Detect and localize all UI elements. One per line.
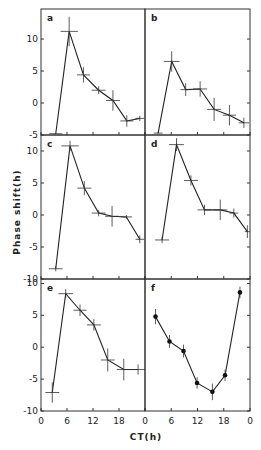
x-tick-label: 0 — [142, 416, 148, 426]
data-point — [153, 314, 158, 319]
panel-letter: a — [47, 13, 53, 23]
panel-frame — [145, 9, 250, 135]
x-tick-label: 0 — [247, 416, 253, 426]
panel-frame — [41, 9, 145, 135]
panel-letter: b — [151, 13, 158, 23]
y-tick-label: 5 — [32, 310, 38, 320]
panel-a: -50510a — [27, 9, 145, 140]
y-tick-label: 10 — [27, 34, 39, 44]
x-tick-label: 12 — [87, 416, 98, 426]
x-tick-label: 18 — [218, 416, 230, 426]
series-line — [162, 145, 247, 240]
panel-frame — [41, 279, 145, 411]
panel-letter: d — [151, 139, 157, 149]
data-point — [167, 339, 172, 344]
panel-c: -10-50510c — [23, 135, 145, 284]
panel-b: b — [145, 9, 250, 135]
panel-d: d — [145, 135, 250, 279]
data-point — [181, 349, 186, 354]
data-point — [223, 373, 228, 378]
y-axis-title: Phase shift(h) — [12, 169, 22, 254]
x-tick-label: 12 — [192, 416, 203, 426]
data-point — [238, 290, 243, 295]
panel-e: -10-50510e — [23, 278, 145, 416]
x-tick-label: 6 — [168, 416, 174, 426]
series-line — [158, 61, 244, 133]
x-tick-label: 0 — [38, 416, 44, 426]
phase-response-figure: -50510ab-10-50510cd-10-50510ef0612180612… — [0, 0, 261, 450]
panel-f: f — [145, 279, 250, 411]
x-tick-label: 18 — [113, 416, 125, 426]
panel-frame — [145, 135, 250, 279]
x-axis-title: CT(h) — [130, 432, 162, 442]
y-tick-label: -5 — [29, 242, 38, 252]
y-tick-label: 5 — [32, 178, 38, 188]
y-tick-label: -10 — [23, 406, 38, 416]
panel-letter: c — [47, 139, 52, 149]
series-line — [52, 294, 138, 393]
y-tick-label: 0 — [32, 342, 38, 352]
y-tick-label: -5 — [29, 130, 38, 140]
panels-group: -50510ab-10-50510cd-10-50510ef0612180612… — [23, 9, 253, 426]
panel-frame — [145, 279, 250, 411]
y-tick-label: 0 — [32, 98, 38, 108]
x-tick-label: 6 — [64, 416, 70, 426]
data-point — [210, 390, 215, 395]
y-tick-label: 10 — [27, 146, 39, 156]
y-tick-label: -5 — [29, 374, 38, 384]
y-tick-label: 5 — [32, 66, 38, 76]
panel-letter: e — [47, 283, 53, 293]
data-point — [195, 381, 200, 386]
y-tick-label: 10 — [27, 278, 39, 288]
panel-letter: f — [151, 283, 155, 293]
y-tick-label: 0 — [32, 210, 38, 220]
series-line — [56, 146, 140, 269]
